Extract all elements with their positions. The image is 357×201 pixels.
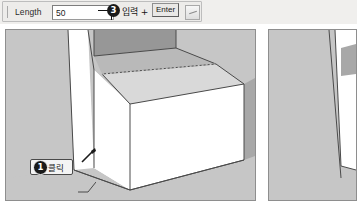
length-toolbar: Length 3 입력 + Enter bbox=[0, 0, 357, 24]
drag-grip-icon[interactable] bbox=[7, 6, 10, 18]
step-badge-1: 1 bbox=[33, 160, 48, 175]
sketchup-scene-right bbox=[269, 30, 356, 200]
box-shadow-face-right bbox=[341, 44, 356, 76]
length-label: Length bbox=[15, 7, 42, 17]
viewport-left[interactable] bbox=[5, 29, 256, 201]
step-badge-3: 3 bbox=[107, 4, 120, 17]
step-3-instruction: 입력 + bbox=[122, 5, 148, 18]
resize-grip-icon[interactable] bbox=[185, 5, 200, 20]
wall-slab-left-face-right bbox=[269, 30, 341, 190]
viewport-right[interactable] bbox=[268, 29, 357, 201]
box-right-face bbox=[244, 78, 255, 160]
length-input[interactable] bbox=[52, 5, 114, 20]
scene-right-graphic bbox=[269, 30, 356, 200]
click-callout-label: 클릭 bbox=[48, 161, 64, 173]
wall-slab-left-face bbox=[6, 30, 74, 178]
enter-key-button[interactable]: Enter bbox=[152, 3, 179, 17]
